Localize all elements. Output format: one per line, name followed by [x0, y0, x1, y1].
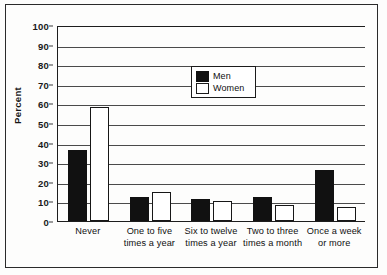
bar-men-3 [253, 197, 272, 221]
bar-women-3 [275, 205, 294, 221]
y-tick-mark-60 [49, 104, 53, 105]
x-category-label-0: Never [57, 226, 119, 238]
y-tick-label-90: 90 [38, 40, 49, 51]
bar-women-0 [90, 107, 109, 221]
bar-group [120, 27, 182, 221]
bar-men-4 [315, 170, 334, 221]
y-tick-mark-100 [49, 26, 53, 27]
y-tick-mark-90 [49, 45, 53, 46]
y-tick-mark-50 [49, 124, 53, 125]
y-tick-label-80: 80 [38, 60, 49, 71]
y-tick-label-40: 40 [38, 138, 49, 149]
x-category-label-4: Once a week or more [303, 226, 365, 249]
y-tick-label-100: 100 [33, 21, 49, 32]
y-tick-label-70: 70 [38, 79, 49, 90]
x-category-label-3: Two to three times a month [242, 226, 304, 249]
y-tick-label-30: 30 [38, 158, 49, 169]
bar-group [243, 27, 305, 221]
y-axis-title: Percent [12, 87, 23, 124]
y-tick-mark-80 [49, 65, 53, 66]
y-tick-mark-70 [49, 84, 53, 85]
bar-women-2 [213, 201, 232, 221]
x-category-label-1: One to five times a year [119, 226, 181, 249]
bar-women-1 [152, 192, 171, 221]
legend-swatch-men-icon [196, 71, 209, 82]
legend-label-women: Women [213, 83, 244, 94]
bar-group [58, 27, 120, 221]
y-tick-label-20: 20 [38, 177, 49, 188]
x-category-label-2: Six to twelve times a year [180, 226, 242, 249]
y-axis-ticks: 1009080706050403020100 [0, 26, 53, 222]
legend-swatch-women-icon [196, 83, 209, 94]
bar-group [181, 27, 243, 221]
bar-men-1 [130, 197, 149, 221]
chart-legend: Men Women [191, 66, 256, 98]
y-tick-label-60: 60 [38, 99, 49, 110]
y-tick-mark-30 [49, 163, 53, 164]
bar-men-0 [68, 150, 87, 221]
bar-women-4 [337, 207, 356, 221]
x-axis-category-labels: NeverOne to five times a yearSix to twel… [57, 226, 365, 266]
y-tick-label-10: 10 [38, 197, 49, 208]
bar-series-container [58, 27, 365, 221]
bar-men-2 [191, 199, 210, 221]
y-tick-mark-10 [49, 202, 53, 203]
bar-group [304, 27, 366, 221]
chart-figure: 1009080706050403020100 Percent NeverOne … [0, 0, 387, 275]
legend-label-men: Men [213, 71, 231, 82]
plot-area [57, 26, 365, 222]
y-tick-mark-20 [49, 182, 53, 183]
y-tick-mark-0 [49, 222, 53, 223]
y-tick-mark-40 [49, 143, 53, 144]
legend-item-men: Men [196, 70, 251, 82]
y-tick-label-50: 50 [38, 119, 49, 130]
legend-item-women: Women [196, 82, 251, 94]
